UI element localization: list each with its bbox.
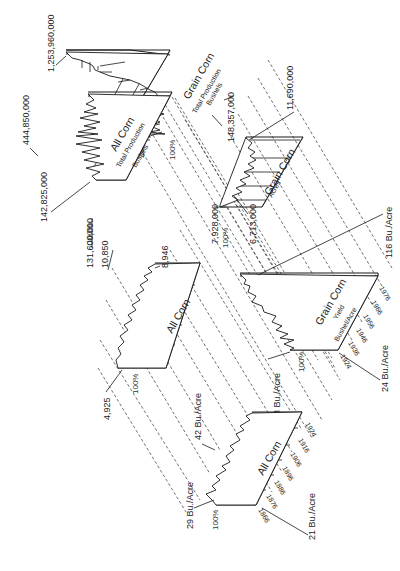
gc-acres-max-label: 11,690,000 <box>285 66 295 110</box>
svg-text:1886: 1886 <box>273 479 287 496</box>
gc-prod-max-label: 1,253,960,000 <box>46 14 56 72</box>
svg-text:1876: 1876 <box>265 493 279 510</box>
gc-prod-pct: 100% <box>168 140 177 160</box>
ac-prod-pct: 100% <box>85 224 94 244</box>
panel-all-corn-acres <box>116 263 200 368</box>
svg-text:1946: 1946 <box>355 327 369 344</box>
gc-yield-min-label: 24 Bu./Acre <box>380 345 390 392</box>
ac-acres-max-label: 10,850 <box>100 240 110 268</box>
ac-acres-end-label: 8,946 <box>160 245 170 268</box>
gc-yield-pct: 100% <box>297 352 306 372</box>
panel-grain-corn-acres <box>220 137 303 207</box>
panel-all-corn-yield <box>206 412 302 505</box>
svg-text:1956: 1956 <box>362 313 376 330</box>
gc-acres-min-label: 6,713,000 <box>248 204 258 244</box>
gc-acres-pct: 100% <box>221 228 230 248</box>
svg-text:1976: 1976 <box>378 285 392 302</box>
svg-text:1936: 1936 <box>347 340 361 357</box>
ac-acres-pct: 100% <box>131 374 140 394</box>
svg-text:1966: 1966 <box>370 299 384 316</box>
ac-yield-pct: 100% <box>211 510 220 530</box>
svg-text:1924: 1924 <box>304 421 318 438</box>
ac-prod-max-label: 444,850,000 <box>21 95 31 145</box>
panel-grain-corn-yield <box>240 273 378 350</box>
ac-prod-start-label: 142,825,000 <box>39 172 49 222</box>
svg-text:1896: 1896 <box>281 465 295 482</box>
corn-chart: 1,253,960,000 261,264,000 100% Grain Cor… <box>0 0 400 571</box>
svg-text:1906: 1906 <box>289 451 303 468</box>
svg-text:1866: 1866 <box>257 507 271 524</box>
gc-yield-max-label: 116 Bu./Acre <box>384 207 394 258</box>
gc-acres-start-label: 7,928,000 <box>210 204 220 244</box>
gc-prod-min-label: 148,357,000 <box>226 92 236 142</box>
ac-yield-start-label: 29 Bu./Acre <box>185 482 195 529</box>
ac-acres-min-label: 4,925 <box>102 397 112 420</box>
ac-yield-max-label: 42 Bu./Acre <box>193 393 203 440</box>
svg-text:1916: 1916 <box>297 437 311 454</box>
svg-text:1924: 1924 <box>339 353 353 370</box>
ac-yield-min-label: 21 Bu./Acre <box>307 493 317 540</box>
